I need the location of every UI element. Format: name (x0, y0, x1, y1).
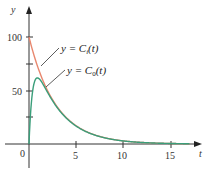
chart: y 100 50 0 5 10 15 t y = Ci(t) y = C0(t) (0, 0, 207, 178)
leader-c0 (46, 70, 65, 87)
y-axis-arrow-icon (26, 6, 32, 14)
label-c0: y = C0(t) (66, 64, 106, 78)
x-tick-label-10: 10 (117, 150, 127, 161)
x-tick-label-15: 15 (165, 150, 175, 161)
origin-label: 0 (20, 148, 25, 159)
chart-svg: y 100 50 0 5 10 15 t y = Ci(t) y = C0(t) (0, 0, 207, 178)
y-tick-label-100: 100 (7, 32, 22, 43)
x-tick-label-5: 5 (73, 150, 78, 161)
curve-c0 (29, 78, 189, 144)
label-ci: y = Ci(t) (60, 42, 99, 56)
y-tick-label-50: 50 (12, 86, 22, 97)
x-axis-arrow-icon (194, 141, 202, 147)
x-axis-label: t (199, 148, 202, 159)
y-axis-label: y (10, 4, 16, 15)
leader-ci (41, 48, 59, 66)
curve-ci (29, 37, 189, 144)
